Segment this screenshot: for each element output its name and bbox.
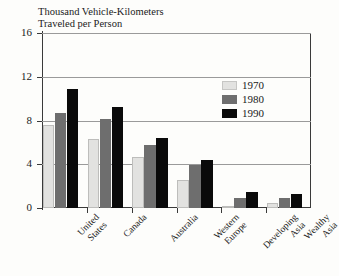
x-axis-labels: UnitedStatesCanadaAustraliaWesternEurope… [0,208,336,276]
x-tick-label: UnitedStates [76,212,109,245]
y-tick-label: 8 [2,114,32,126]
bar-1980 [189,165,201,208]
x-tick-label-line: Australia [168,212,200,244]
x-tick-label: DevelopingAsia [261,212,307,258]
bar-group [222,33,258,208]
bar-group [43,33,79,208]
bar-1970 [132,157,144,208]
legend: 197019801990 [222,78,264,120]
bar-1990 [112,107,124,208]
legend-item: 1980 [222,92,264,106]
y-tick-label: 12 [2,70,32,82]
bars-layer [42,33,311,208]
x-tick-label: WesternEurope [212,212,249,249]
y-tick-label: 16 [2,26,32,38]
bar-1980 [279,198,291,208]
x-tick-label: Australia [168,212,200,244]
bar-1990 [291,194,303,208]
y-axis-caption-line2: Traveled per Person [38,18,163,30]
bar-group [177,33,213,208]
legend-item: 1990 [222,106,264,120]
bar-1990 [156,138,168,208]
y-axis-caption: Thousand Vehicle-Kilometers Traveled per… [38,6,163,29]
bar-1990 [201,160,213,208]
bar-1980 [234,198,246,208]
legend-swatch-icon [222,81,237,90]
bar-1970 [177,180,189,208]
bar-group [132,33,168,208]
legend-label: 1980 [242,92,264,106]
bar-1970 [43,125,55,208]
bar-1990 [67,89,79,208]
bar-group [88,33,124,208]
x-tick-label: WealthyAsia [302,212,339,249]
bar-1980 [55,113,67,208]
y-tick-label: 4 [2,157,32,169]
bar-group [267,33,303,208]
x-tick-label-line: Canada [122,212,150,240]
bar-1970 [88,139,100,208]
bar-1980 [144,145,156,208]
legend-swatch-icon [222,95,237,104]
bar-1980 [100,119,112,208]
y-axis-caption-line1: Thousand Vehicle-Kilometers [38,6,163,18]
legend-item: 1970 [222,78,264,92]
legend-label: 1990 [242,106,264,120]
bar-1990 [246,192,258,208]
legend-swatch-icon [222,109,237,118]
legend-label: 1970 [242,78,264,92]
x-tick-label: Canada [122,212,150,240]
